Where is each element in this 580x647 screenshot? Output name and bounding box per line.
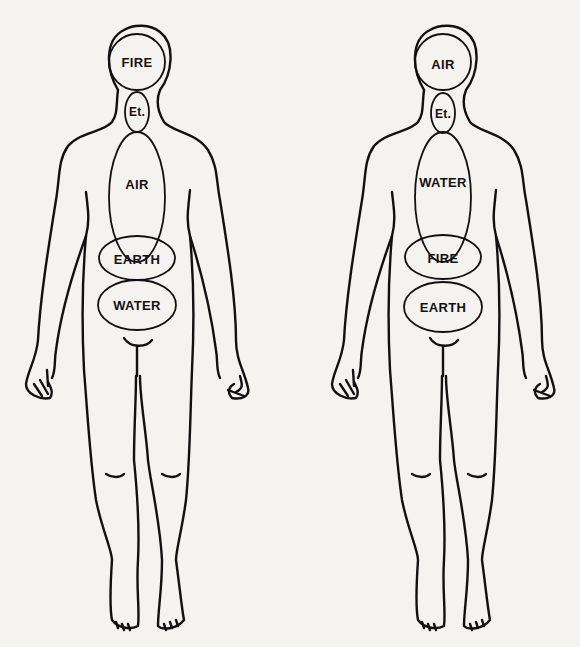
zone-label: Et. [435,107,451,121]
zone-label: AIR [431,57,454,72]
zone-label: WATER [419,175,466,190]
body-outline-right [0,0,580,647]
zone-label: EARTH [420,300,466,315]
zone-chest-right [415,132,471,262]
zone-label: FIRE [428,251,459,266]
diagram-canvas: FIRE Et. AIR EARTH WATER [0,0,580,647]
